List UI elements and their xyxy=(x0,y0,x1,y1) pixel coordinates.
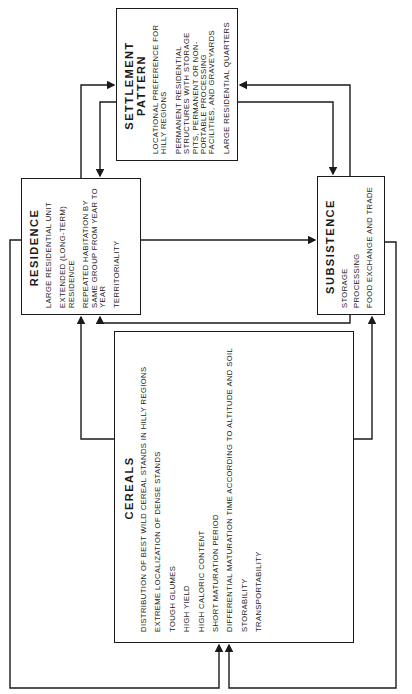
residence-item: LARGE RESIDENTIAL UNIT xyxy=(45,187,53,308)
cereals-item: STORABILITY xyxy=(241,344,249,632)
cereals-item: DISTRIBUTION OF BEST WILD CEREAL STANDS … xyxy=(140,344,148,632)
cereals-item: EXTREME LOCALIZATION OF DENSE STANDS xyxy=(154,344,162,632)
settlement-item: LOCATIONAL PREFERENCE FOR HILLY REGIONS xyxy=(152,17,169,154)
arrow-settlement-to-subsistence xyxy=(238,102,333,174)
residence-item: EXTENDED (LONG-TERM) RESIDENCE xyxy=(59,187,76,308)
subsistence-item: PROCESSING xyxy=(353,185,361,308)
residence-item: REPEATED HABITATION BY SAME GROUP FROM Y… xyxy=(82,187,107,308)
arrow-residence-to-settlement xyxy=(81,85,114,178)
residence-item: TERRITORIALITY xyxy=(113,187,121,308)
residence-box: RESIDENCE LARGE RESIDENTIAL UNIT EXTENDE… xyxy=(21,178,141,315)
residence-title: RESIDENCE xyxy=(28,187,40,308)
arrow-subsistence-to-residence xyxy=(100,315,350,323)
subsistence-item: FOOD EXCHANGE AND TRADE xyxy=(366,185,374,308)
settlement-pattern-title: SETTLEMENT PATTERN xyxy=(123,17,147,154)
cereals-item: HIGH YIELD xyxy=(183,344,191,632)
subsistence-item: STORAGE xyxy=(341,185,349,308)
cereals-item: DIFFERENTIAL MATURATION TIME ACCORDING T… xyxy=(226,344,234,632)
subsistence-title: SUBSISTENCE xyxy=(324,185,336,308)
arrow-cereals-to-subsistence xyxy=(354,317,372,439)
arrow-settlement-to-residence xyxy=(100,102,116,176)
cereals-item: TOUGH GLUMES xyxy=(169,344,177,632)
arrow-cereals-to-residence xyxy=(81,317,114,439)
cereals-item: SHORT MATURATION PERIOD xyxy=(212,344,220,632)
subsistence-box: SUBSISTENCE STORAGE PROCESSING FOOD EXCH… xyxy=(317,176,385,315)
settlement-item: PERMANENT RESIDENTIAL STRUCTURES WITH ST… xyxy=(175,17,217,154)
cereals-item: HIGH CALORIC CONTENT xyxy=(198,344,206,632)
cereals-box: CEREALS DISTRIBUTION OF BEST WILD CEREAL… xyxy=(114,331,354,643)
settlement-item: LARGE RESIDENTIAL QUARTERS xyxy=(223,17,231,154)
settlement-pattern-box: SETTLEMENT PATTERN LOCATIONAL PREFERENCE… xyxy=(116,8,238,161)
cereals-title: CEREALS xyxy=(123,344,135,632)
cereals-item: TRANSPORTABILITY xyxy=(255,344,263,632)
